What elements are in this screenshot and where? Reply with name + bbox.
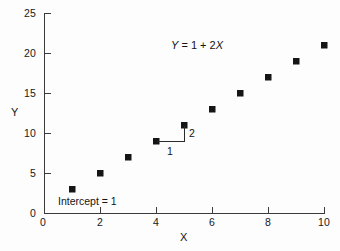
- x-tick-label-0: 0: [40, 217, 46, 228]
- slope-triangle: [157, 126, 185, 142]
- y-tick-label-0: 0: [22, 208, 36, 219]
- scatter-plot-figure: 0 5 10 15 20 25 0 2 4 6 8 10 Y X Y = 1 +…: [0, 0, 340, 251]
- plot-canvas: [0, 0, 340, 251]
- y-axis-title: Y: [11, 107, 18, 118]
- x-tick-label-10: 10: [318, 217, 330, 228]
- data-point: [69, 186, 76, 193]
- y-tick-label-20: 20: [16, 48, 36, 59]
- x-axis-title: X: [180, 232, 187, 243]
- data-series-markers: [69, 42, 328, 193]
- x-tick-label-8: 8: [265, 217, 271, 228]
- equation-operator: = 1 + 2: [178, 39, 215, 51]
- y-tick-label-25: 25: [16, 8, 36, 19]
- x-tick-label-2: 2: [97, 217, 103, 228]
- y-tick-label-10: 10: [16, 128, 36, 139]
- x-tick-label-6: 6: [209, 217, 215, 228]
- data-point: [209, 106, 216, 113]
- data-point: [237, 90, 244, 97]
- data-point: [97, 170, 104, 177]
- rise-label: 2: [189, 128, 195, 139]
- data-point: [265, 74, 272, 81]
- equation-annotation: Y = 1 + 2X: [171, 40, 223, 51]
- x-tick-label-4: 4: [153, 217, 159, 228]
- equation-rhs-variable: X: [216, 39, 223, 51]
- data-point: [125, 154, 132, 161]
- y-tick-label-5: 5: [22, 168, 36, 179]
- data-point: [321, 42, 328, 49]
- run-label: 1: [167, 146, 173, 157]
- data-point: [293, 58, 300, 65]
- y-tick-label-15: 15: [16, 88, 36, 99]
- y-tick-marks: [45, 14, 52, 214]
- intercept-annotation: Intercept = 1: [58, 196, 117, 207]
- x-tick-marks: [45, 207, 325, 214]
